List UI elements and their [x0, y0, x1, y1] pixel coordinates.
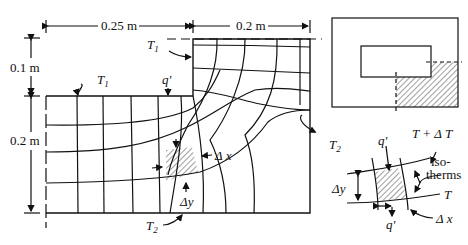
dim-width-left: 0.25 m [101, 19, 137, 32]
inset-cross-section [332, 18, 462, 111]
label-delta-y: Δy [180, 195, 193, 208]
detail-q-bottom: q' [386, 218, 395, 231]
detail-delta-y: Δy [332, 182, 345, 195]
dim-height-bottom: 0.2 m [10, 134, 40, 147]
flux-plot-diagram [0, 0, 468, 245]
detail-T: T [444, 188, 451, 201]
detail-T-plus-dT: T + Δ T [412, 127, 452, 140]
annotation-arrows [78, 51, 316, 225]
label-delta-x: Δ x [215, 149, 231, 162]
label-q-prime: q' [162, 73, 171, 86]
label-T1-top: T1 [147, 38, 159, 54]
dim-width-right: 0.2 m [236, 19, 266, 32]
region-boundary [46, 39, 310, 213]
detail-isotherms-2: therms [426, 168, 461, 181]
hatched-element [166, 147, 198, 181]
dim-height-top: 0.1 m [10, 61, 40, 74]
detail-delta-x: Δ x [436, 212, 452, 225]
label-T1-left: T1 [97, 73, 109, 89]
label-T2-right: T2 [329, 138, 341, 154]
detail-q-top: q' [378, 134, 387, 147]
detail-element [347, 146, 440, 218]
label-T2-bottom: T2 [146, 219, 158, 235]
